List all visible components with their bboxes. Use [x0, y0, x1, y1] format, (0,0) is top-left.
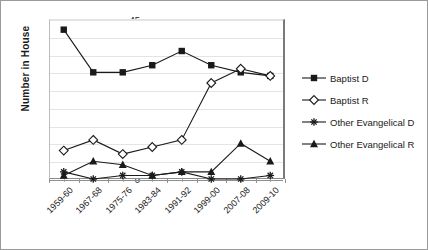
data-point-filled-square [120, 69, 126, 75]
data-point-open-diamond [59, 146, 68, 155]
data-point-asterisk [89, 175, 97, 183]
legend-label: Other Evangelical R [330, 139, 414, 150]
data-point-filled-triangle [237, 139, 245, 146]
series-other-evangelical-r [60, 139, 275, 178]
data-point-open-diamond [207, 79, 216, 88]
data-point-asterisk [266, 172, 274, 180]
data-point-asterisk [237, 175, 245, 183]
series-overlay [49, 19, 285, 179]
data-point-asterisk [207, 175, 215, 183]
legend-label: Baptist D [330, 73, 369, 84]
legend-marker-filled-triangle-icon [301, 137, 327, 151]
data-point-filled-triangle [89, 157, 97, 164]
data-point-open-diamond [148, 143, 157, 152]
data-point-filled-square [311, 75, 317, 81]
legend-marker-open-diamond-icon [301, 93, 327, 107]
data-point-filled-square [179, 48, 185, 54]
x-tick-mark [285, 179, 286, 183]
legend-item[interactable]: Other Evangelical R [301, 133, 427, 155]
data-point-filled-square [90, 69, 96, 75]
y-axis-title: Number in House [20, 0, 31, 139]
data-point-open-diamond [177, 135, 186, 144]
data-point-open-diamond [118, 150, 127, 159]
gridline [50, 180, 283, 181]
legend-label: Other Evangelical D [330, 117, 414, 128]
data-point-asterisk [310, 118, 318, 126]
legend-marker-filled-square-icon [301, 71, 327, 85]
data-point-filled-square [208, 62, 214, 68]
chart-figure: Number in House 051015202530354045 1959-… [0, 0, 428, 250]
data-point-filled-square [149, 62, 155, 68]
chart-legend: Baptist DBaptist ROther Evangelical DOth… [301, 67, 427, 155]
series-line [64, 143, 271, 175]
data-point-filled-square [61, 26, 67, 32]
data-point-filled-triangle [266, 157, 274, 164]
legend-marker-asterisk-icon [301, 115, 327, 129]
legend-label: Baptist R [330, 95, 369, 106]
legend-item[interactable]: Other Evangelical D [301, 111, 427, 133]
legend-item[interactable]: Baptist D [301, 67, 427, 89]
data-point-asterisk [119, 172, 127, 180]
legend-item[interactable]: Baptist R [301, 89, 427, 111]
data-point-open-diamond [310, 96, 319, 105]
data-point-open-diamond [89, 135, 98, 144]
